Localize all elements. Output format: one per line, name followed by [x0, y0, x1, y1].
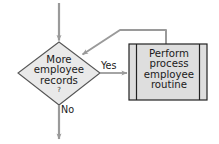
flowchart-canvas: More employee records ? Perform process … [0, 0, 219, 144]
flowchart-graphics [0, 0, 219, 144]
predefined-process-perform-routine [129, 44, 207, 100]
